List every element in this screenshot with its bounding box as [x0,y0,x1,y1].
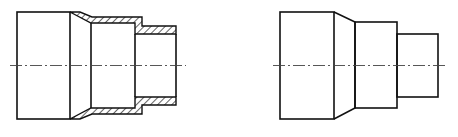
middle-body [355,22,397,108]
large-body-section [17,12,70,119]
reducer-diagram [0,0,458,137]
wall-top-hatch [70,12,176,34]
section-view [10,12,186,119]
exterior-view [273,12,448,119]
wall-bottom-hatch [70,97,176,119]
